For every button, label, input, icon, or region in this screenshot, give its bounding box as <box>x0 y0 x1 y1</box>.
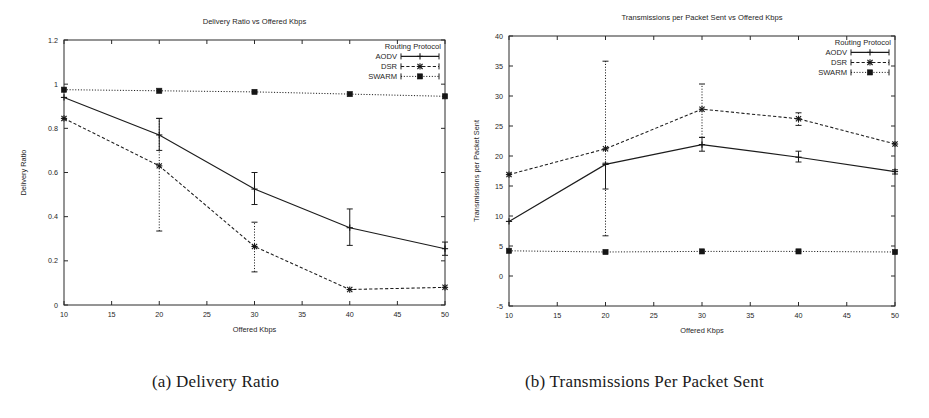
x-tick-label: 10 <box>505 311 513 320</box>
series-path <box>509 145 895 222</box>
x-tick-label: 50 <box>441 310 449 319</box>
legend-entry-label-dsr: DSR <box>831 58 848 67</box>
y-axis-title: Transmissions per Packet Sent <box>472 120 481 222</box>
data-point-square <box>867 70 872 75</box>
caption-b: (b) Transmissions Per Packet Sent <box>525 372 764 392</box>
series-swarm <box>506 248 897 254</box>
x-tick-label: 30 <box>698 311 706 320</box>
x-axis: 101520253035404550Offered Kbps <box>505 36 899 335</box>
x-tick-label: 25 <box>650 311 658 320</box>
data-point-square <box>61 87 66 92</box>
y-tick-label: 0.6 <box>48 168 58 177</box>
legend-entry-label-swarm: SWARM <box>368 72 397 81</box>
x-tick-label: 45 <box>843 311 851 320</box>
y-tick-label: 1.2 <box>48 36 58 45</box>
chart-panel-delivery-ratio: Delivery Ratio vs Offered Kbps1015202530… <box>0 0 464 360</box>
y-tick-label: 20 <box>495 152 503 161</box>
x-tick-label: 15 <box>108 310 116 319</box>
data-point-square <box>603 249 608 254</box>
data-point-square <box>417 74 422 79</box>
legend-title: Routing Protocol <box>835 38 891 47</box>
y-tick-label: 30 <box>495 92 503 101</box>
y-tick-label: 0.2 <box>48 256 58 265</box>
x-tick-label: 35 <box>746 311 754 320</box>
delivery-ratio-chart: Delivery Ratio vs Offered Kbps1015202530… <box>0 0 464 360</box>
x-axis-title: Offered Kbps <box>233 325 277 334</box>
chart-title: Delivery Ratio vs Offered Kbps <box>203 17 307 26</box>
figure-container: Delivery Ratio vs Offered Kbps1015202530… <box>0 0 929 418</box>
y-tick-label: 25 <box>495 122 503 131</box>
x-tick-label: 15 <box>553 311 561 320</box>
y-tick-label: 0 <box>499 272 503 281</box>
x-tick-label: 10 <box>60 310 68 319</box>
chart-title: Transmissions per Packet Sent vs Offered… <box>621 13 782 22</box>
y-tick-label: 15 <box>495 182 503 191</box>
legend: Routing ProtocolAODVDSRSWARM <box>368 42 441 81</box>
y-tick-label: 5 <box>499 242 503 251</box>
y-tick-label: 0.8 <box>48 124 58 133</box>
data-point-square <box>252 89 257 94</box>
data-point-square <box>699 249 704 254</box>
series-aodv <box>506 137 898 224</box>
transmissions-per-packet-chart: Transmissions per Packet Sent vs Offered… <box>465 0 929 360</box>
y-tick-label: -5 <box>497 302 503 311</box>
x-tick-label: 20 <box>602 311 610 320</box>
data-point-square <box>506 248 511 253</box>
y-tick-label: 10 <box>495 212 503 221</box>
x-tick-label: 20 <box>155 310 163 319</box>
data-point-square <box>157 88 162 93</box>
y-tick-label: 35 <box>495 62 503 71</box>
caption-row: (a) Delivery Ratio (b) Transmissions Per… <box>0 358 929 418</box>
legend-entry-label-aodv: AODV <box>375 52 397 61</box>
legend: Routing ProtocolAODVDSRSWARM <box>818 38 891 77</box>
data-point-square <box>442 94 447 99</box>
y-tick-label: 0 <box>54 301 58 310</box>
y-axis-title: Delivery Ratio <box>19 149 28 195</box>
legend-entry-label-aodv: AODV <box>825 48 847 57</box>
data-point-square <box>347 92 352 97</box>
x-tick-label: 45 <box>393 310 401 319</box>
series-aodv <box>61 94 448 255</box>
y-tick-label: 40 <box>495 32 503 41</box>
x-axis-title: Offered Kbps <box>680 326 724 335</box>
x-tick-label: 25 <box>203 310 211 319</box>
x-tick-label: 40 <box>795 311 803 320</box>
series-swarm <box>61 87 447 99</box>
x-tick-label: 35 <box>298 310 306 319</box>
x-tick-label: 40 <box>346 310 354 319</box>
caption-a: (a) Delivery Ratio <box>152 372 279 392</box>
chart-panel-transmissions: Transmissions per Packet Sent vs Offered… <box>465 0 929 360</box>
y-tick-label: 1 <box>54 80 58 89</box>
legend-entry-label-swarm: SWARM <box>818 68 847 77</box>
y-tick-label: 0.4 <box>48 212 58 221</box>
data-point-square <box>892 249 897 254</box>
legend-entry-label-dsr: DSR <box>381 62 398 71</box>
data-point-square <box>796 249 801 254</box>
x-tick-label: 50 <box>891 311 899 320</box>
legend-title: Routing Protocol <box>385 42 441 51</box>
x-tick-label: 30 <box>251 310 259 319</box>
